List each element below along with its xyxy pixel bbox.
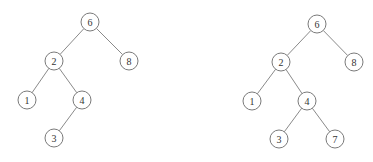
tree-edge: [96, 28, 122, 54]
node-label: 7: [333, 134, 338, 145]
tree-node-6: 6: [81, 13, 99, 31]
node-label: 2: [279, 57, 284, 68]
tree-node-3: 3: [45, 129, 63, 147]
tree-node-1: 1: [243, 92, 261, 110]
tree-node-8: 8: [120, 52, 138, 70]
node-label: 1: [25, 95, 30, 106]
node-label: 3: [52, 133, 57, 144]
node-label: 8: [352, 57, 357, 68]
tree-edge: [257, 69, 275, 94]
tree-edge: [32, 68, 49, 92]
node-label: 8: [127, 56, 132, 67]
tree-edge: [287, 31, 311, 56]
tree-after-insert: 6281437: [243, 15, 363, 148]
node-label: 6: [315, 19, 320, 30]
tree-edge: [323, 30, 347, 55]
node-label: 2: [52, 56, 57, 67]
tree-node-4: 4: [298, 92, 316, 110]
node-label: 4: [305, 96, 310, 107]
tree-node-8: 8: [345, 53, 363, 71]
tree-edge: [59, 68, 77, 92]
tree-edge: [59, 107, 76, 131]
tree-node-2: 2: [45, 52, 63, 70]
tree-node-1: 1: [18, 91, 36, 109]
tree-edge: [312, 108, 329, 132]
tree-node-4: 4: [73, 91, 91, 109]
tree-node-3: 3: [270, 130, 288, 148]
tree-edge: [286, 69, 302, 93]
node-label: 6: [88, 17, 93, 28]
node-label: 4: [80, 95, 85, 106]
node-label: 1: [250, 96, 255, 107]
node-label: 3: [277, 134, 282, 145]
tree-before-insert: 628143: [18, 13, 138, 147]
tree-node-7: 7: [326, 130, 344, 148]
tree-node-2: 2: [272, 53, 290, 71]
tree-edge: [60, 29, 84, 55]
tree-edge: [284, 108, 301, 132]
binary-search-tree-diagram: 6281436281437: [0, 0, 373, 162]
tree-node-6: 6: [308, 15, 326, 33]
